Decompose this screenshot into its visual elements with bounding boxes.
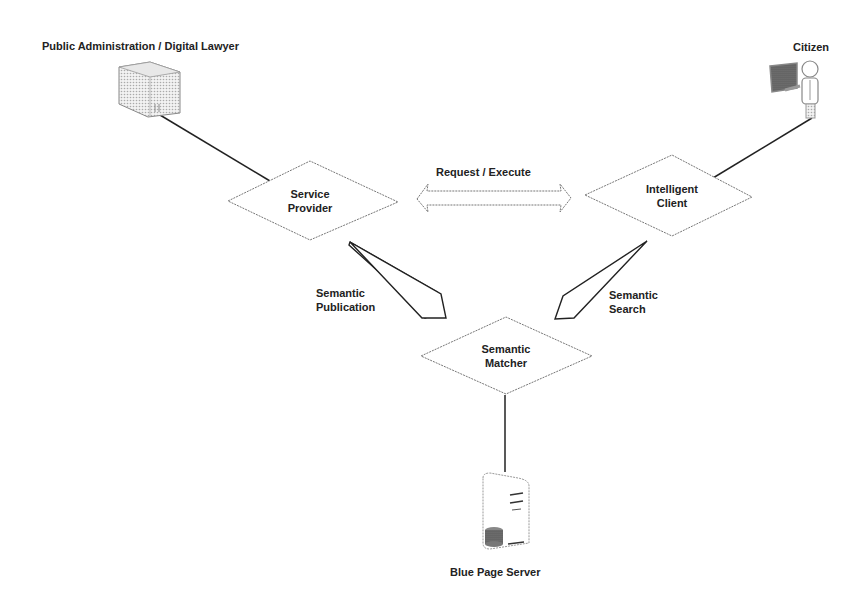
semantic-matcher-line1: Semantic — [466, 342, 546, 356]
citizen-label: Citizen — [793, 40, 829, 54]
service-provider-line2: Provider — [280, 201, 340, 215]
server-icon — [483, 473, 529, 549]
semantic-publication-label: Semantic Publication — [316, 286, 375, 314]
semantic-matcher-label: Semantic Matcher — [466, 342, 546, 370]
person-computer-icon — [770, 61, 818, 118]
service-provider-line1: Service — [280, 187, 340, 201]
semantic-search-label: Semantic Search — [609, 288, 658, 316]
intelligent-client-label: Intelligent Client — [630, 182, 714, 210]
semantic-search-line2: Search — [609, 302, 658, 316]
connector-citizen-client — [713, 118, 812, 178]
connector-admin-provider — [160, 115, 270, 181]
diagram-canvas — [0, 0, 862, 603]
public-admin-label: Public Administration / Digital Lawyer — [42, 39, 239, 53]
semantic-search-line1: Semantic — [609, 288, 658, 302]
building-icon — [119, 62, 180, 117]
intelligent-client-line1: Intelligent — [630, 182, 714, 196]
blue-page-server-label: Blue Page Server — [450, 565, 541, 579]
request-execute-label: Request / Execute — [436, 165, 531, 179]
semantic-publication-line2: Publication — [316, 300, 375, 314]
intelligent-client-line2: Client — [630, 196, 714, 210]
request-execute-arrow — [417, 184, 571, 212]
semantic-matcher-line2: Matcher — [466, 356, 546, 370]
service-provider-label: Service Provider — [280, 187, 340, 215]
semantic-publication-line1: Semantic — [316, 286, 375, 300]
